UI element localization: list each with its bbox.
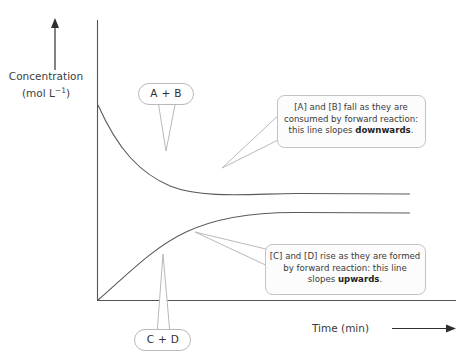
- y-axis-label: Concentration (mol L−1): [0, 70, 92, 100]
- callout-reactants-emphasis: downwards: [355, 125, 410, 135]
- x-axis-label: Time (min): [312, 322, 369, 334]
- callout-products-line1: [C] and [D] rise as they are formed: [270, 251, 421, 261]
- y-axis-label-line1: Concentration: [9, 70, 83, 82]
- diagram-text-layer: Concentration (mol L−1) Time (min) A + B…: [0, 0, 471, 355]
- callout-products-line3: slopes upwards.: [308, 274, 382, 284]
- callout-reactants-line3: this line slopes downwards.: [289, 125, 414, 135]
- y-axis-unit-exponent: −1: [55, 85, 66, 94]
- pill-label-reactants: A + B: [139, 87, 193, 99]
- equilibrium-diagram: Concentration (mol L−1) Time (min) A + B…: [0, 0, 471, 355]
- callout-reactants-line2: consumed by forward reaction:: [284, 114, 418, 124]
- callout-text-reactants: [A] and [B] fall as they are consumed by…: [280, 102, 422, 137]
- callout-products-emphasis: upwards: [338, 274, 380, 284]
- callout-text-products: [C] and [D] rise as they are formed by f…: [268, 251, 422, 286]
- callout-products-line2: by forward reaction: this line: [283, 263, 407, 273]
- callout-reactants-line1: [A] and [B] fall as they are: [294, 102, 408, 112]
- y-axis-label-line2: (mol L−1): [22, 87, 70, 99]
- pill-label-products: C + D: [135, 333, 191, 345]
